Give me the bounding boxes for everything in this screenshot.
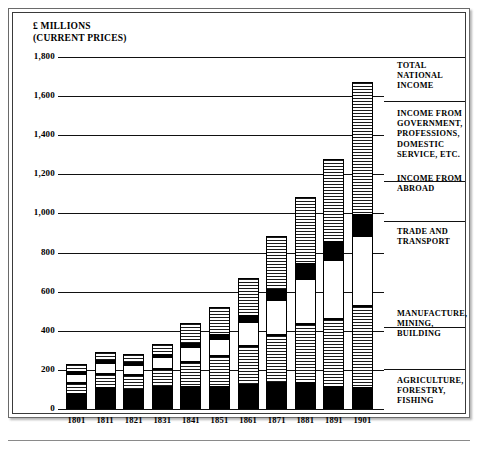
bar-1841	[180, 9, 201, 409]
bar-segment-agriculture	[152, 387, 173, 409]
bar-segment-government	[323, 159, 344, 242]
plot-area: 02004006008001,0001,2001,4001,6001,800 1…	[9, 9, 469, 417]
bar-segment-agriculture	[180, 387, 201, 409]
y-tick-label: 1,600	[9, 91, 55, 100]
bar-segment-government	[123, 354, 144, 363]
bar-1881	[295, 9, 316, 409]
bar-1811	[95, 9, 116, 409]
bar-segment-manufacture	[266, 335, 287, 383]
legend-label-5: AGRICULTURE, FORESTRY, FISHING	[397, 376, 469, 407]
x-tick-label: 1901	[346, 415, 379, 425]
bar-segment-government	[209, 307, 230, 334]
bar-segment-agriculture	[323, 387, 344, 409]
bar-segment-abroad	[66, 372, 87, 374]
y-tick-label: 600	[9, 287, 55, 296]
y-tick-label: 1,200	[9, 169, 55, 178]
bar-segment-agriculture	[66, 394, 87, 409]
bar-segment-abroad	[238, 316, 259, 322]
bar-segment-abroad	[95, 361, 116, 363]
bar-segment-abroad	[352, 215, 373, 236]
bar-segment-agriculture	[123, 390, 144, 409]
bar-segment-manufacture	[95, 374, 116, 389]
bar-segment-abroad	[209, 335, 230, 339]
bar-segment-manufacture	[180, 362, 201, 386]
bar-segment-manufacture	[152, 369, 173, 388]
bar-segment-abroad	[323, 242, 344, 261]
y-tick-label: 1,800	[9, 52, 55, 61]
bar-segment-trade	[180, 347, 201, 362]
bar-segment-agriculture	[295, 383, 316, 409]
bar-segment-manufacture	[238, 346, 259, 384]
legend-leader-line-5	[384, 369, 465, 370]
bar-segment-manufacture	[295, 324, 316, 383]
x-axis-line	[58, 409, 384, 410]
bar-segment-government	[152, 344, 173, 355]
bar-1821	[123, 9, 144, 409]
bar-segment-trade	[66, 374, 87, 383]
bar-segment-trade	[323, 260, 344, 319]
legend-leader-line-3	[384, 221, 465, 222]
bar-segment-abroad	[152, 355, 173, 357]
bar-1831	[152, 9, 173, 409]
bar-segment-government	[238, 278, 259, 316]
y-tick-label: 200	[9, 365, 55, 374]
y-tick-label: 1,000	[9, 208, 55, 217]
bar-segment-agriculture	[95, 388, 116, 409]
bar-segment-government	[95, 352, 116, 361]
bar-1861	[238, 9, 259, 409]
bar-segment-agriculture	[238, 385, 259, 409]
bar-segment-trade	[238, 322, 259, 346]
bar-segment-manufacture	[66, 383, 87, 395]
y-tick-label: 1,400	[9, 130, 55, 139]
bar-segment-abroad	[123, 363, 144, 365]
bar-segment-trade	[266, 300, 287, 334]
bar-segment-trade	[95, 363, 116, 374]
bar-1891	[323, 9, 344, 409]
bar-segment-abroad	[295, 264, 316, 279]
page-bottom-rule	[8, 440, 470, 451]
legend-label-2: INCOME FROM ABROAD	[397, 174, 469, 194]
bar-segment-agriculture	[266, 383, 287, 409]
bar-segment-government	[180, 323, 201, 345]
bar-segment-trade	[209, 339, 230, 357]
chart-frame: £ MILLIONS (CURRENT PRICES) 020040060080…	[8, 8, 470, 418]
y-tick-label: 800	[9, 248, 55, 257]
legend-leader-line-0	[384, 57, 465, 58]
bar-1851	[209, 9, 230, 409]
bar-segment-agriculture	[352, 388, 373, 409]
y-tick-label: 0	[9, 404, 55, 413]
bar-segment-manufacture	[352, 306, 373, 388]
legend-leader-line-4	[384, 327, 465, 328]
bar-1871	[266, 9, 287, 409]
bar-segment-abroad	[266, 290, 287, 301]
bar-segment-trade	[352, 236, 373, 306]
bar-segment-agriculture	[209, 387, 230, 409]
bar-segment-manufacture	[123, 375, 144, 391]
bar-segment-manufacture	[209, 356, 230, 387]
legend-label-1: INCOME FROM GOVERNMENT, PROFESSIONS, DOM…	[397, 109, 469, 160]
bar-segment-government	[266, 236, 287, 290]
bar-segment-government	[352, 82, 373, 215]
legend-leader-line-1	[384, 101, 465, 102]
bar-1801	[66, 9, 87, 409]
legend-leader-line-2	[384, 181, 465, 182]
legend-label-4: MANUFACTURE, MINING, BUILDING	[397, 309, 469, 340]
legend-label-0: TOTAL NATIONAL INCOME	[397, 61, 469, 92]
bar-1901	[352, 9, 373, 409]
y-tick-label: 400	[9, 326, 55, 335]
bar-segment-trade	[152, 357, 173, 369]
bar-segment-trade	[295, 279, 316, 324]
bar-segment-abroad	[180, 344, 201, 347]
bar-segment-manufacture	[323, 319, 344, 387]
bar-segment-government	[66, 364, 87, 372]
legend-label-3: TRADE AND TRANSPORT	[397, 227, 469, 247]
bar-segment-trade	[123, 365, 144, 375]
bar-segment-government	[295, 197, 316, 264]
